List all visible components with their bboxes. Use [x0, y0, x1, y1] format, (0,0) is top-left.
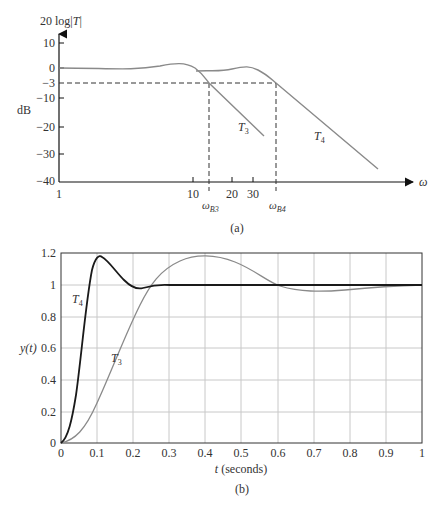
step-xtick-0-5: 0.5 [234, 446, 249, 460]
bode-xlabel: ω [419, 175, 427, 189]
step-xtick-0-8: 0.8 [343, 446, 358, 460]
step-xtick-0-4: 0.4 [198, 446, 213, 460]
bode-marker-wb3: ωB3 [202, 199, 219, 214]
bode-curve-t4 [196, 67, 378, 169]
step-ytick-0-4: 0.4 [41, 373, 56, 387]
bode-reference-lines [59, 83, 276, 191]
step-grid [61, 253, 422, 443]
bode-ytick-0: 0 [49, 61, 55, 75]
bode-label-t4: T4 [314, 129, 325, 145]
step-label-t3: T3 [111, 351, 122, 367]
step-xtick-0: 0 [58, 446, 64, 460]
step-ytick-0: 0 [50, 436, 56, 450]
bode-ytick-m20: −20 [36, 120, 55, 134]
step-xtick-0-9: 0.9 [379, 446, 394, 460]
caption-a: (a) [230, 221, 243, 235]
bode-ytick-m30: −30 [36, 147, 55, 161]
bode-ytick-m10: −10 [36, 91, 55, 105]
step-xtick-0-1: 0.1 [90, 446, 105, 460]
step-ytick-1-2: 1.2 [41, 246, 56, 260]
bode-ytick-10: 10 [43, 36, 55, 50]
bode-label-t3: T3 [238, 120, 249, 136]
step-ytick-0-2: 0.2 [41, 405, 56, 419]
bode-ytick-m40: −40 [36, 174, 55, 188]
step-ytick-1: 1 [50, 278, 56, 292]
bode-xtick-30: 30 [247, 187, 259, 201]
step-label-t4: T4 [72, 292, 83, 308]
bode-xtick-20: 20 [226, 187, 238, 201]
bode-ytick-m3: −3 [42, 76, 55, 90]
bode-unit-label: dB [17, 103, 31, 117]
step-response-plot: 1.2 1 0.8 0.6 0.4 0.2 0 0 0.1 0.2 0.3 0.… [19, 246, 425, 496]
figure: 20 log|T| dB ω 10 0 −3 −10 −20 −30 −40 1… [0, 0, 445, 508]
bode-marker-wb4: ωB4 [269, 199, 286, 214]
caption-b: (b) [235, 482, 249, 496]
step-xtick-1: 1 [419, 446, 425, 460]
bode-curve-t3 [59, 64, 264, 136]
bode-x-ticks [193, 177, 253, 182]
step-ytick-0-8: 0.8 [41, 310, 56, 324]
bode-plot: 20 log|T| dB ω 10 0 −3 −10 −20 −30 −40 1… [17, 14, 427, 235]
step-xtick-0-2: 0.2 [126, 446, 141, 460]
step-xtick-0-7: 0.7 [307, 446, 322, 460]
step-ytick-0-6: 0.6 [41, 341, 56, 355]
bode-xtick-10: 10 [187, 187, 199, 201]
step-xtick-0-6: 0.6 [271, 446, 286, 460]
step-ylabel: y(t) [19, 341, 37, 355]
step-xtick-0-3: 0.3 [162, 446, 177, 460]
bode-y-ticks [59, 43, 64, 154]
bode-ylabel: 20 log|T| [40, 14, 82, 28]
step-xlabel: t (seconds) [215, 462, 267, 476]
bode-xtick-1: 1 [56, 187, 62, 201]
